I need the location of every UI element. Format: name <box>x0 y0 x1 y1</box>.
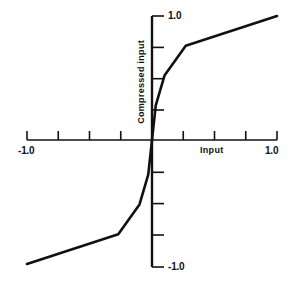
x-axis-max-tick-label: 1.0 <box>265 145 278 156</box>
x-axis-title: Input <box>200 145 224 155</box>
x-axis-min-tick-label: -1.0 <box>18 145 34 156</box>
compression-characteristic-chart: -1.0 1.0 1.0 -1.0 Input Compressed input <box>0 0 294 291</box>
plot-area <box>0 0 294 291</box>
y-axis-title: Compressed input <box>136 40 146 124</box>
y-axis-min-tick-label: -1.0 <box>168 261 184 272</box>
y-axis-ticks <box>152 16 164 267</box>
y-axis-max-tick-label: 1.0 <box>168 10 181 21</box>
